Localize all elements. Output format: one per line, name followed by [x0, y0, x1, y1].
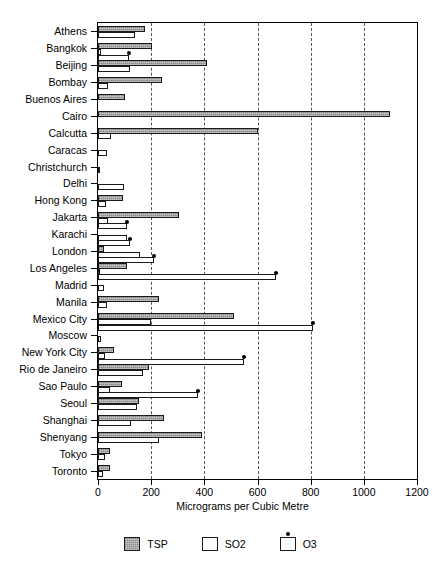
bar-so2	[98, 336, 101, 342]
bar-o3	[98, 223, 127, 229]
category-tick	[91, 150, 97, 151]
category-tick	[91, 65, 97, 66]
x-axis-title: Micrograms per Cubic Metre	[0, 500, 441, 512]
legend-item-o3: O3	[280, 537, 317, 551]
bars-layer	[98, 23, 417, 479]
category-label: Delhi	[63, 178, 87, 189]
bar-o3	[98, 325, 313, 331]
bar-so2	[98, 404, 137, 410]
bar-tsp	[98, 94, 125, 100]
x-axis-title-text: Micrograms per Cubic Metre	[176, 500, 308, 512]
category-label: Jakarta	[53, 212, 87, 223]
category-label: Beijing	[55, 60, 87, 71]
x-tick-label: 400	[196, 487, 214, 498]
legend-label: TSP	[147, 538, 167, 550]
category-tick	[91, 335, 97, 336]
bar-so2	[98, 167, 100, 173]
legend-swatch-o3	[280, 537, 296, 551]
bar-tsp	[98, 212, 179, 218]
category-tick	[91, 82, 97, 83]
category-label: Seoul	[60, 398, 87, 409]
o3-marker-dot	[127, 51, 131, 55]
category-tick	[91, 268, 97, 269]
category-tick	[91, 217, 97, 218]
category-tick	[91, 116, 97, 117]
bar-so2	[98, 66, 130, 72]
legend-swatch-tsp	[124, 537, 140, 551]
category-tick	[91, 403, 97, 404]
legend-item-tsp: TSP	[124, 537, 167, 551]
x-tick	[311, 480, 312, 485]
o3-marker-dot	[125, 220, 129, 224]
category-tick	[91, 386, 97, 387]
category-tick	[91, 454, 97, 455]
category-label: Hong Kong	[34, 195, 87, 206]
x-tick	[364, 480, 365, 485]
bar-so2	[98, 184, 124, 190]
category-label: Mexico City	[33, 313, 87, 324]
category-tick	[91, 471, 97, 472]
bar-tsp	[98, 128, 258, 134]
x-tick-label: 200	[142, 487, 160, 498]
bar-so2	[98, 83, 108, 89]
bar-tsp	[98, 263, 127, 269]
o3-marker-dot	[311, 321, 315, 325]
category-label: Rio de Janeiro	[19, 364, 87, 375]
x-tick	[258, 480, 259, 485]
category-tick	[91, 302, 97, 303]
x-tick	[98, 480, 99, 485]
bar-so2	[98, 32, 135, 38]
bar-so2	[98, 437, 159, 443]
category-tick	[91, 31, 97, 32]
x-tick	[204, 480, 205, 485]
category-tick	[91, 234, 97, 235]
category-label: Shenyang	[40, 432, 87, 443]
category-label: Bombay	[48, 77, 87, 88]
category-label: Toronto	[52, 465, 87, 476]
category-axis: AthensBangkokBeijingBombayBuenos AiresCa…	[0, 22, 97, 480]
legend-item-so2: SO2	[202, 537, 246, 551]
bar-o3	[98, 274, 276, 280]
chart-legend: TSPSO2O3	[0, 527, 441, 561]
category-tick	[91, 251, 97, 252]
bar-tsp	[98, 43, 152, 49]
category-tick	[91, 369, 97, 370]
category-label: Buenos Aires	[25, 94, 87, 105]
category-label: New York City	[22, 347, 87, 358]
bar-so2	[98, 302, 107, 308]
x-tick-label: 1200	[405, 487, 428, 498]
o3-marker-dot	[128, 237, 132, 241]
category-label: Manila	[56, 296, 87, 307]
category-label: Madrid	[55, 280, 87, 291]
category-label: Cairo	[62, 111, 87, 122]
bar-so2	[98, 201, 106, 207]
bar-so2	[98, 370, 143, 376]
category-label: Karachi	[51, 229, 87, 240]
category-label: Shanghai	[43, 415, 87, 426]
x-tick-label: 800	[302, 487, 320, 498]
bar-so2	[98, 471, 103, 477]
category-label: London	[52, 246, 87, 257]
category-tick	[91, 319, 97, 320]
category-tick	[91, 285, 97, 286]
bar-tsp	[98, 111, 390, 117]
category-label: Los Angeles	[30, 263, 87, 274]
category-label: Sao Paulo	[39, 381, 87, 392]
category-tick	[91, 133, 97, 134]
legend-label: SO2	[225, 538, 246, 550]
bar-so2	[98, 454, 105, 460]
bar-so2	[98, 150, 107, 156]
x-tick-label: 600	[249, 487, 267, 498]
bar-so2	[98, 133, 111, 139]
bar-so2	[98, 420, 131, 426]
category-tick	[91, 167, 97, 168]
category-label: Christchurch	[28, 161, 87, 172]
category-tick	[91, 200, 97, 201]
x-tick	[417, 480, 418, 485]
category-tick	[91, 99, 97, 100]
category-tick	[91, 352, 97, 353]
category-tick	[91, 420, 97, 421]
legend-label: O3	[303, 538, 317, 550]
x-tick-label: 1000	[352, 487, 375, 498]
category-label: Calcutta	[48, 128, 87, 139]
